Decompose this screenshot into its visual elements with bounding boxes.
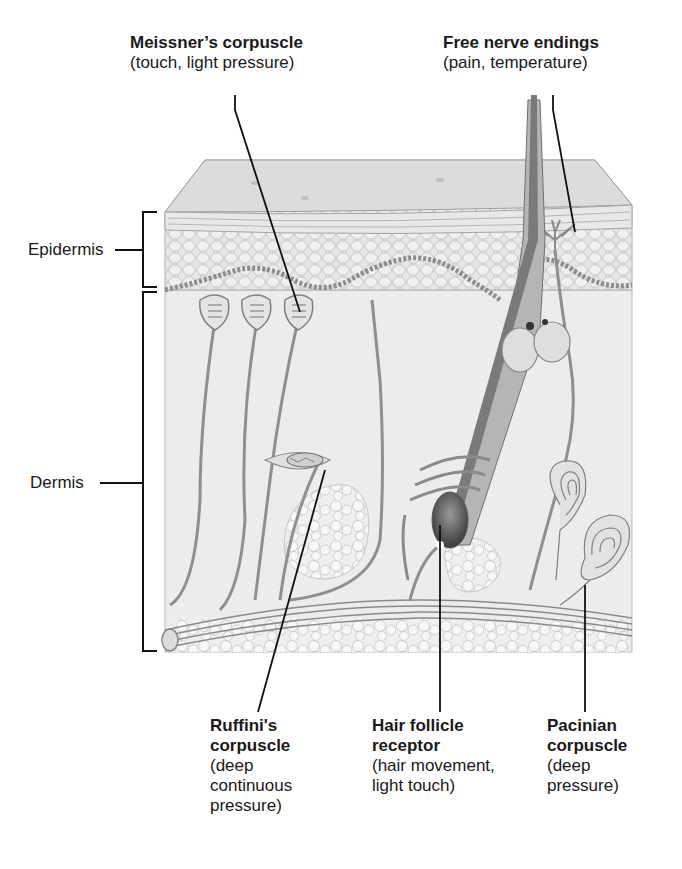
dermis-bracket [143,292,157,651]
pacinian-function-2: pressure) [547,776,627,796]
epidermis-bracket [143,212,157,287]
hair-follicle-name-2: receptor [372,736,495,756]
meissner-name: Meissner’s corpuscle [130,33,303,53]
pacinian-function-1: (deep [547,756,627,776]
pacinian-name-1: Pacinian [547,716,627,736]
hair-follicle-function-1: (hair movement, [372,756,495,776]
free-nerve-name: Free nerve endings [443,33,599,53]
free-nerve-function: (pain, temperature) [443,53,599,73]
pacinian-label: Pacinian corpuscle (deep pressure) [547,716,627,796]
epidermis-layer [165,160,632,300]
pacinian-name-2: corpuscle [547,736,627,756]
epidermis-label: Epidermis [28,240,104,260]
hair-follicle-function-2: light touch) [372,776,495,796]
dermis-label: Dermis [30,473,84,493]
ruffini-function-2: continuous [210,776,292,796]
ruffini-name-2: corpuscle [210,736,292,756]
hair-follicle-name-1: Hair follicle [372,716,495,736]
ruffini-function-3: pressure) [210,796,292,816]
meissner-label: Meissner’s corpuscle (touch, light press… [130,33,303,73]
meissner-function: (touch, light pressure) [130,53,303,73]
ruffini-function-1: (deep [210,756,292,776]
ruffini-name-1: Ruffini's [210,716,292,736]
free-nerve-label: Free nerve endings (pain, temperature) [443,33,599,73]
ruffini-label: Ruffini's corpuscle (deep continuous pre… [210,716,292,816]
hair-follicle-label: Hair follicle receptor (hair movement, l… [372,716,495,796]
layer-brackets [100,212,157,651]
